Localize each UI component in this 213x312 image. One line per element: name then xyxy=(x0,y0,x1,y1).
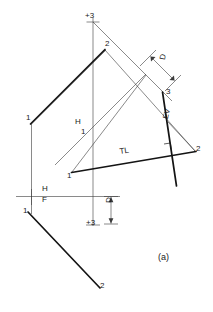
arrowhead-lower-bottom xyxy=(109,218,114,223)
dimension-arrowheads xyxy=(109,57,175,224)
label-true-length: TL xyxy=(119,147,129,156)
object-line-tl-1-2 xyxy=(72,152,197,173)
label-point-2-right: 2 xyxy=(196,145,200,153)
figure-caption: (a) xyxy=(158,253,169,262)
figure-canvas: +3 2 1 H 1 1 TL EV 2 3 D H F D +3 1 2 (a… xyxy=(0,0,213,312)
label-fold-h-upper: H xyxy=(75,118,81,126)
label-point-1-tl-start: 1 xyxy=(67,172,71,180)
label-point-1-front-left: 1 xyxy=(23,207,27,215)
label-point-3-right: 3 xyxy=(166,88,170,96)
object-line-1-2-top xyxy=(31,50,106,125)
label-edge-view: EV xyxy=(162,108,171,119)
label-top-point-3: +3 xyxy=(85,12,94,20)
label-dim-d-lower: D xyxy=(105,197,113,203)
label-point-2-top: 2 xyxy=(105,40,109,48)
dim-line-upper-d xyxy=(151,57,175,81)
label-point-2-bottom: 2 xyxy=(100,282,104,290)
edge-3-2-thin xyxy=(168,122,196,152)
fold-line-13 xyxy=(55,74,146,165)
label-bottom-point-3: +3 xyxy=(86,219,95,227)
label-fold-1-upper: 1 xyxy=(81,128,85,136)
object-line-edge-view xyxy=(163,92,177,186)
projector-3-upper xyxy=(93,22,172,101)
label-fold-f-ref: F xyxy=(42,196,47,204)
label-fold-h-ref: H xyxy=(42,185,48,193)
edge-1-3-thin xyxy=(72,75,146,172)
label-point-1-left-upper: 1 xyxy=(26,114,30,122)
